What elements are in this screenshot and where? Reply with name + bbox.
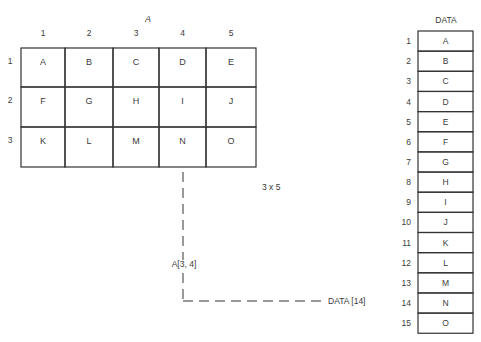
matrix-cell-value: F: [40, 96, 46, 106]
column-label: 5: [229, 28, 234, 38]
data-array-value: F: [443, 137, 448, 147]
matrix-cell-value: N: [179, 136, 186, 146]
data-array-index: 4: [406, 97, 411, 107]
column-label: 4: [180, 28, 185, 38]
matrix-dimension-label: 3 x 5: [262, 182, 281, 192]
matrix-cell: [65, 127, 113, 167]
matrix-cell: [21, 87, 65, 127]
data-array-value: I: [444, 197, 446, 207]
matrix-cell: [159, 127, 206, 167]
matrix-cell-value: G: [85, 96, 92, 106]
data-array-index: 10: [402, 217, 412, 227]
data-array-index: 9: [406, 197, 411, 207]
matrix-cell-value: B: [86, 57, 92, 67]
data-array-value: M: [442, 278, 449, 288]
matrix-cell-value: E: [228, 57, 234, 67]
data-array-index: 2: [406, 56, 411, 66]
data-array-index: 6: [406, 137, 411, 147]
matrix-A: 12345123ABCDEFGHIJKLMNO: [8, 28, 256, 167]
matrix-cell: [113, 87, 159, 127]
matrix-cell-value: A: [40, 57, 46, 67]
data-array-index: 7: [406, 157, 411, 167]
row-label: 3: [8, 135, 13, 145]
data-array-value: O: [442, 318, 449, 328]
matrix-cell-value: O: [227, 136, 234, 146]
matrix-cell: [159, 87, 206, 127]
matrix-cell-value: J: [229, 96, 234, 106]
data-array-index: 11: [402, 238, 411, 248]
matrix-cell: [65, 48, 113, 87]
matrix-cell-value: K: [40, 136, 46, 146]
data-array-index: 13: [402, 278, 412, 288]
matrix-cell: [206, 48, 256, 87]
matrix-cell-value: L: [86, 136, 91, 146]
data-array-index: 14: [402, 298, 412, 308]
data-array-value: N: [442, 298, 448, 308]
data-array-value: A: [443, 36, 449, 46]
matrix-cell: [21, 48, 65, 87]
data-array-index: 8: [406, 177, 411, 187]
matrix-cell-value: D: [179, 57, 186, 67]
matrix-cell-value: C: [133, 57, 140, 67]
matrix-cell: [206, 127, 256, 167]
column-label: 3: [134, 28, 139, 38]
matrix-cell: [65, 87, 113, 127]
data-array-index: 15: [402, 318, 412, 328]
row-major-mapping-diagram: A 12345123ABCDEFGHIJKLMNO 3 x 5 A[3, 4] …: [0, 0, 481, 342]
data-array: A1B2C3D4E5F6G7H8I9J10K11L12M13N14O15: [402, 31, 473, 333]
data-array-index: 5: [406, 117, 411, 127]
matrix-title: A: [144, 14, 151, 24]
data-array-value: J: [443, 217, 447, 227]
matrix-cell: [206, 87, 256, 127]
data-array-index: 1: [406, 36, 411, 46]
row-label: 2: [8, 95, 13, 105]
column-label: 1: [41, 28, 46, 38]
data-array-value: K: [443, 238, 449, 248]
column-label: 2: [87, 28, 92, 38]
data-array-title: DATA: [435, 15, 457, 25]
data-array-index: 12: [402, 258, 412, 268]
data-array-value: H: [442, 177, 448, 187]
data-array-value: D: [442, 97, 448, 107]
data-array-index: 3: [406, 76, 411, 86]
matrix-cell: [113, 127, 159, 167]
matrix-cell: [21, 127, 65, 167]
matrix-cell-value: H: [133, 96, 140, 106]
row-label: 1: [8, 56, 13, 66]
matrix-cell: [159, 48, 206, 87]
data-array-value: L: [443, 258, 448, 268]
source-element-label: A[3, 4]: [172, 259, 197, 269]
data-array-value: B: [443, 56, 449, 66]
matrix-cell-value: M: [132, 136, 140, 146]
matrix-cell: [113, 48, 159, 87]
matrix-cell-value: I: [181, 96, 184, 106]
target-element-label: DATA [14]: [328, 296, 365, 306]
data-array-value: E: [443, 117, 449, 127]
data-array-value: G: [442, 157, 449, 167]
data-array-value: C: [442, 76, 448, 86]
